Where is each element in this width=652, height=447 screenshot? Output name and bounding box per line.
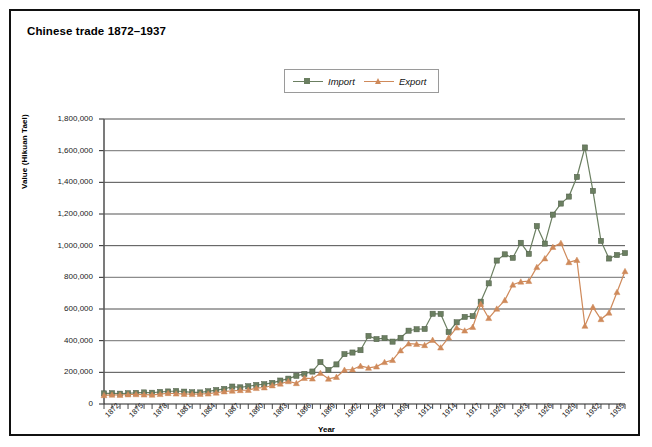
y-tick-label: 800,000 [31,272,93,281]
y-tick-label: 1,000,000 [31,241,93,250]
y-tick-label: 400,000 [31,336,93,345]
y-tick-label: 1,400,000 [31,177,93,186]
plot-area [11,11,642,438]
y-tick-label: 0 [31,399,93,408]
x-axis-title: Year [11,425,642,434]
y-axis-title: Value (Hikuan Tael) [20,39,29,189]
chart-plot-svg [11,11,642,438]
y-tick-label: 200,000 [31,367,93,376]
series-export [101,240,628,398]
y-tick-label: 1,200,000 [31,209,93,218]
y-tick-label: 1,800,000 [31,114,93,123]
y-tick-label: 600,000 [31,304,93,313]
y-tick-label: 1,600,000 [31,146,93,155]
chart-figure: Chinese trade 1872–1937 Import Export Va… [9,9,640,436]
